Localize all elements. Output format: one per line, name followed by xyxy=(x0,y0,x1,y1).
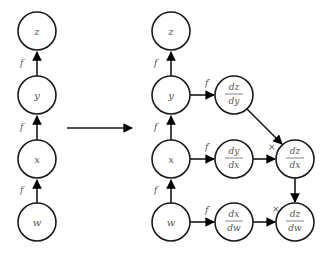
svg-text:dx: dx xyxy=(229,209,240,219)
svg-text:dw: dw xyxy=(227,223,241,233)
edge-label-f: f xyxy=(153,122,159,132)
svg-text:dw: dw xyxy=(288,223,302,233)
svg-text:dx: dx xyxy=(290,160,301,170)
svg-text:y: y xyxy=(167,90,174,101)
svg-text:dy: dy xyxy=(229,146,241,156)
edge-label-f: f xyxy=(19,185,25,195)
node-y: y xyxy=(152,76,190,114)
node-x: x xyxy=(152,140,190,178)
node-dz-dw: dz dw xyxy=(276,203,314,241)
multiply-label: × xyxy=(268,142,276,152)
svg-text:y: y xyxy=(33,90,40,101)
edge-label-f: f xyxy=(153,58,159,68)
node-dz-dx: dz dx xyxy=(276,140,314,178)
svg-text:dx: dx xyxy=(229,160,240,170)
node-w: w xyxy=(18,203,56,241)
backprop-diagram: f f f z y x w f f f f′ f′ f′ × × z y x xyxy=(0,0,332,254)
edge-label-fprime: f′ xyxy=(204,78,210,88)
left-graph: f f f z y x w xyxy=(18,12,56,241)
svg-text:z: z xyxy=(167,26,174,37)
svg-text:x: x xyxy=(34,154,40,165)
node-w: w xyxy=(152,203,190,241)
svg-text:dy: dy xyxy=(229,96,241,106)
node-y: y xyxy=(18,76,56,114)
node-x: x xyxy=(18,140,56,178)
node-dx-dw: dx dw xyxy=(215,203,253,241)
node-dz-dy: dz dy xyxy=(215,76,253,114)
edge-label-f: f xyxy=(19,58,25,68)
node-z: z xyxy=(18,12,56,50)
edge-dzdy-dzdx xyxy=(247,109,282,144)
svg-text:w: w xyxy=(167,217,176,228)
svg-text:x: x xyxy=(168,154,174,165)
edge-label-fprime: f′ xyxy=(204,205,210,215)
svg-text:dz: dz xyxy=(290,209,301,219)
edge-label-f: f xyxy=(19,122,25,132)
svg-text:w: w xyxy=(33,217,42,228)
svg-text:dz: dz xyxy=(229,82,240,92)
svg-text:dz: dz xyxy=(290,146,301,156)
right-graph: f f f f′ f′ f′ × × z y x w dz dy dy xyxy=(152,12,314,241)
node-z: z xyxy=(152,12,190,50)
edge-label-f: f xyxy=(153,185,159,195)
svg-text:z: z xyxy=(33,26,40,37)
edge-label-fprime: f′ xyxy=(204,142,210,152)
node-dy-dx: dy dx xyxy=(215,140,253,178)
